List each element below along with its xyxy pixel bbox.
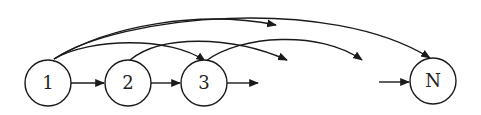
node-2: 2	[105, 60, 151, 106]
graph-diagram: 1 2 3 N	[0, 0, 481, 115]
node-3: 3	[181, 60, 227, 106]
node-3-label: 3	[198, 72, 209, 93]
edge-1-to-far-arc	[54, 19, 276, 59]
node-1-label: 1	[42, 72, 53, 93]
edge-1-to-N-arc	[54, 18, 430, 59]
node-2-label: 2	[122, 72, 133, 93]
node-N: N	[410, 58, 456, 104]
node-1: 1	[25, 60, 71, 106]
node-N-label: N	[425, 70, 441, 91]
edge-1-to-3-arc	[54, 43, 205, 61]
edge-3-to-far-arc	[206, 39, 362, 61]
